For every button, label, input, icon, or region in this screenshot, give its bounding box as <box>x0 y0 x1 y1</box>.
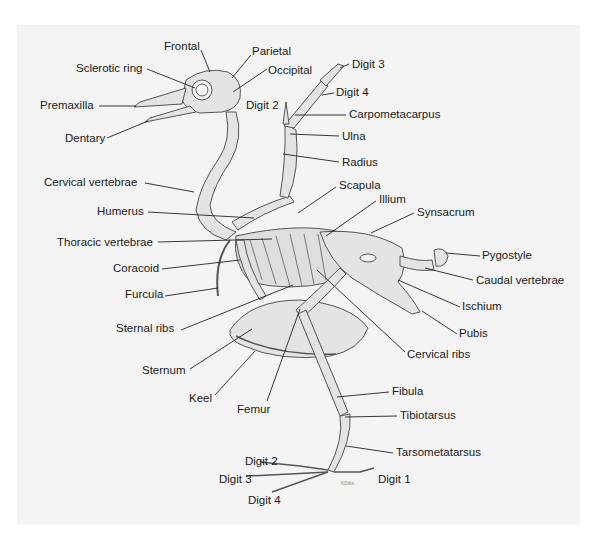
label-caudal-vertebrae: Caudal vertebrae <box>476 274 564 287</box>
label-sternal-ribs: Sternal ribs <box>116 322 174 335</box>
label-digit-4-foot: Digit 4 <box>248 494 281 507</box>
toe-digit-1 <box>334 468 374 472</box>
label-tarsometatarsus: Tarsometatarsus <box>396 446 481 459</box>
leader-line-scapula <box>298 187 336 213</box>
label-digit-1-foot: Digit 1 <box>378 473 411 486</box>
leader-line-digit-4-wing <box>322 93 334 95</box>
leader-line-dentary <box>107 121 148 138</box>
leader-line-tarsometatarsus <box>346 446 393 453</box>
leader-line-furcula <box>165 288 218 296</box>
label-keel: Keel <box>189 392 212 405</box>
beak-upper <box>134 88 186 107</box>
leader-line-keel <box>215 351 255 395</box>
label-humerus: Humerus <box>97 205 144 218</box>
furcula-bone <box>217 240 230 296</box>
leader-line-synsacrum <box>371 213 414 233</box>
label-scapula: Scapula <box>339 179 381 192</box>
artist-signature: KDibs <box>341 480 354 486</box>
label-digit-3-wing: Digit 3 <box>352 58 385 71</box>
leader-line-coracoid <box>162 260 240 269</box>
label-illium: Illium <box>379 193 406 206</box>
leader-line-caudal-vertebrae <box>425 268 473 280</box>
label-femur: Femur <box>237 403 270 416</box>
label-pubis: Pubis <box>459 327 488 340</box>
bird-skeleton-illustration <box>0 0 607 541</box>
label-ischium: Ischium <box>462 300 502 313</box>
label-premaxilla: Premaxilla <box>40 99 94 112</box>
label-sclerotic-ring: Sclerotic ring <box>76 62 142 75</box>
label-coracoid: Coracoid <box>113 262 159 275</box>
pygostyle-shape <box>434 249 448 266</box>
neck <box>196 112 239 240</box>
leader-line-ulna <box>290 134 339 136</box>
label-digit-3-foot: Digit 3 <box>219 473 252 486</box>
label-dentary: Dentary <box>65 132 105 145</box>
leader-line-illium <box>326 201 376 236</box>
leader-line-pygostyle <box>446 253 480 256</box>
label-synsacrum: Synsacrum <box>417 206 475 219</box>
label-furcula: Furcula <box>125 288 163 301</box>
leader-line-sternum <box>190 329 252 369</box>
tarsometatarsus-bone <box>328 414 350 472</box>
label-parietal: Parietal <box>252 45 291 58</box>
caudal-vertebrae-shape <box>400 256 434 271</box>
wing-digit-2 <box>283 102 289 124</box>
label-ulna: Ulna <box>342 130 366 143</box>
label-fibula: Fibula <box>392 385 423 398</box>
label-digit-2-foot: Digit 2 <box>245 455 278 468</box>
leader-line-parietal <box>232 55 251 78</box>
leader-line-fibula <box>337 392 389 397</box>
label-cervical-ribs: Cervical ribs <box>407 348 470 361</box>
label-sternum: Sternum <box>142 364 185 377</box>
wing-digit-3 <box>320 64 344 86</box>
label-pygostyle: Pygostyle <box>482 249 532 262</box>
carpometacarpus-bone <box>284 80 328 128</box>
leader-line-pubis <box>422 311 457 334</box>
toe-digit-3 <box>246 472 328 476</box>
label-radius: Radius <box>342 156 378 169</box>
beak-lower <box>145 106 196 122</box>
label-frontal: Frontal <box>164 40 200 53</box>
label-digit-2-wing: Digit 2 <box>246 99 279 112</box>
leader-line-tibiotarsus <box>345 416 397 417</box>
label-cervical-vertebrae: Cervical vertebrae <box>44 176 137 189</box>
label-tibiotarsus: Tibiotarsus <box>400 409 456 422</box>
leader-line-cervical-vertebrae <box>145 183 194 192</box>
radius-ulna <box>280 124 297 198</box>
label-digit-4-wing: Digit 4 <box>336 86 369 99</box>
leader-line-occipital <box>233 69 267 92</box>
label-thoracic-vertebrae: Thoracic vertebrae <box>57 236 153 249</box>
humerus-bone <box>232 196 294 230</box>
leader-line-frontal <box>201 50 210 72</box>
label-carpometacarpus: Carpometacarpus <box>349 108 440 121</box>
label-occipital: Occipital <box>268 64 312 77</box>
